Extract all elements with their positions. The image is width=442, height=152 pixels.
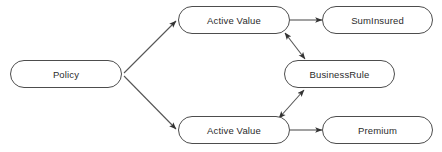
node-sum-insured[interactable] [323, 7, 433, 34]
node-premium[interactable] [323, 117, 433, 144]
node-business-rule[interactable] [285, 61, 395, 88]
node-active-value-top[interactable] [179, 7, 290, 34]
diagram-graphics [0, 0, 442, 152]
diagram-canvas: Policy Active Value SumInsured BusinessR… [0, 0, 442, 152]
edge-active-value-top-business-rule [285, 33, 305, 59]
edge-policy-to-active-value-bottom [124, 76, 176, 129]
edge-policy-to-active-value-top [124, 21, 176, 73]
edge-active-value-bottom-business-rule [279, 90, 304, 118]
node-active-value-bottom[interactable] [179, 117, 290, 144]
node-layer [11, 7, 433, 144]
node-policy[interactable] [11, 61, 122, 88]
